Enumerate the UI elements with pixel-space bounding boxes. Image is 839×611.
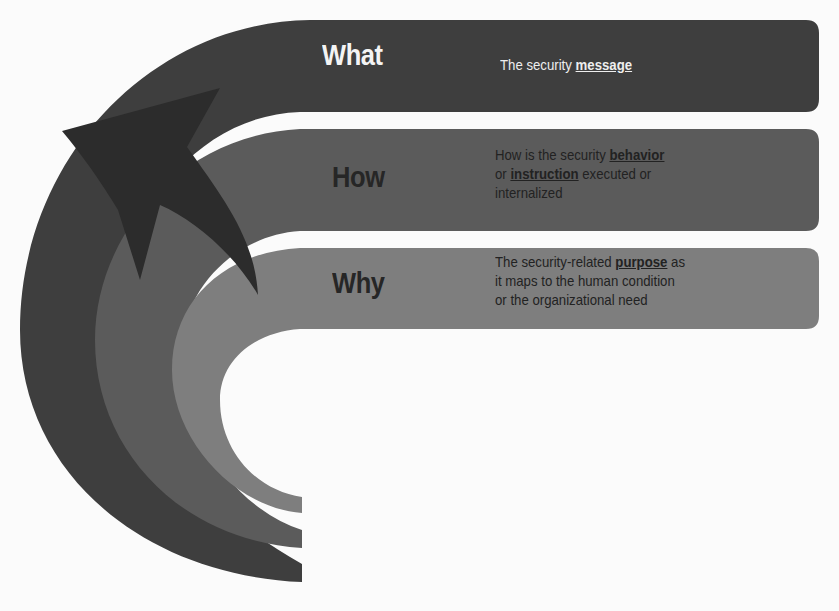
- what-description: The security message: [500, 55, 632, 74]
- why-title: Why: [332, 266, 385, 300]
- what-how-why-diagram: [0, 0, 839, 611]
- why-desc-text: as: [667, 253, 685, 270]
- why-desc-line-3: or the organizational need: [495, 290, 685, 309]
- why-desc-text: The security-related: [495, 253, 615, 270]
- why-desc-emphasis-purpose: purpose: [615, 253, 667, 270]
- how-desc-line-3: internalized: [495, 183, 664, 202]
- what-desc-emphasis: message: [576, 56, 633, 73]
- how-desc-emphasis-behavior: behavior: [609, 146, 664, 163]
- why-desc-line-2: it maps to the human condition: [495, 271, 685, 290]
- what-title: What: [322, 38, 383, 72]
- how-desc-emphasis-instruction: instruction: [510, 165, 578, 182]
- why-desc-line-1: The security-related purpose as: [495, 252, 685, 271]
- how-desc-text: How is the security: [495, 146, 609, 163]
- how-desc-text: executed or: [579, 165, 652, 182]
- how-description: How is the security behavior or instruct…: [495, 145, 664, 202]
- what-desc-text: The security: [500, 56, 576, 73]
- how-desc-line-2: or instruction executed or: [495, 164, 664, 183]
- why-description: The security-related purpose as it maps …: [495, 252, 685, 309]
- how-desc-text: or: [495, 165, 510, 182]
- how-desc-line-1: How is the security behavior: [495, 145, 664, 164]
- how-title: How: [332, 160, 385, 194]
